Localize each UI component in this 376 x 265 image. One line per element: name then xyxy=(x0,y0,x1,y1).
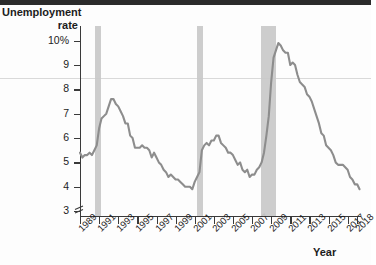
y-tick-label-7: 7 xyxy=(9,108,69,118)
y-axis-title-line2: rate xyxy=(2,19,78,32)
y-axis-title-line1: Unemployment xyxy=(2,6,78,19)
y-tick-label-4: 4 xyxy=(9,181,69,191)
y-tick-label-8: 8 xyxy=(9,83,69,93)
y-tick-label-10%: 10% xyxy=(9,35,69,45)
x-axis-title: Year xyxy=(313,246,336,258)
plot-area xyxy=(80,26,361,216)
y-tick-label-5: 5 xyxy=(9,156,69,166)
y-tick-label-6: 6 xyxy=(9,132,69,142)
y-tick-label-3: 3 xyxy=(9,205,69,215)
unemployment-rate-line xyxy=(80,26,361,216)
scan-edge-artifact xyxy=(0,0,371,5)
y-tick-label-9: 9 xyxy=(9,59,69,69)
y-axis-title: Unemployment rate xyxy=(2,6,78,31)
